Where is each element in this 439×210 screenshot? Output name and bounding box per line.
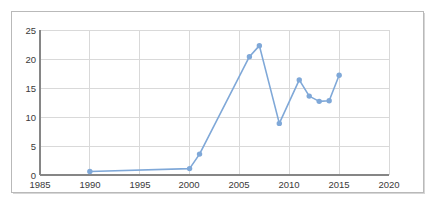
data-point-2014 — [326, 98, 331, 103]
data-point-2012 — [307, 93, 312, 98]
data-point-2009 — [277, 121, 282, 126]
gridlines — [40, 30, 389, 175]
data-point-2007 — [257, 43, 262, 48]
data-point-1990 — [87, 169, 92, 174]
data-point-2001 — [197, 151, 202, 156]
axis-lines — [40, 30, 389, 175]
chart-svg — [0, 0, 439, 210]
chart-plot-container: 25 20 15 10 5 0 1985 1990 1995 2000 2005… — [0, 0, 439, 210]
data-point-2011 — [297, 77, 302, 82]
data-point-2006 — [247, 54, 252, 59]
chart-figure: 25 20 15 10 5 0 1985 1990 1995 2000 2005… — [0, 0, 439, 210]
series-line-1 — [90, 46, 339, 172]
series-markers-1 — [87, 43, 342, 174]
data-point-2000 — [187, 166, 192, 171]
data-point-2015 — [336, 73, 341, 78]
data-point-2013 — [317, 99, 322, 104]
